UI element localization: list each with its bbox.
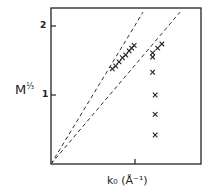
y-tick-label-2: 2 <box>40 20 46 30</box>
x-marker-point <box>153 133 158 138</box>
data-points <box>110 42 164 138</box>
x-marker-point <box>150 51 155 56</box>
x-marker-point <box>113 64 118 69</box>
x-marker-point <box>153 93 158 98</box>
x-marker-point <box>153 112 158 117</box>
x-marker-point <box>117 60 122 65</box>
plot-area <box>0 0 212 196</box>
y-ticks <box>51 26 56 95</box>
x-marker-point <box>132 43 137 48</box>
fit-lines <box>51 12 180 164</box>
x-axis-label: k₀ (Å⁻¹) <box>107 174 148 187</box>
y-axis-label-exponent: ⅓ <box>26 82 34 91</box>
x-marker-point <box>150 70 155 75</box>
y-axis-label-main: M <box>15 82 26 97</box>
x-marker-point <box>155 46 160 51</box>
y-tick-label-1: 1 <box>42 89 48 99</box>
plot-frame <box>51 8 201 164</box>
x-marker-point <box>150 55 155 60</box>
shallow-dashed-line <box>51 12 180 164</box>
x-marker-point <box>160 42 165 47</box>
y-axis-label: M⅓ <box>15 82 34 97</box>
x-marker-point <box>123 53 128 58</box>
steep-dashed-line <box>51 12 143 164</box>
